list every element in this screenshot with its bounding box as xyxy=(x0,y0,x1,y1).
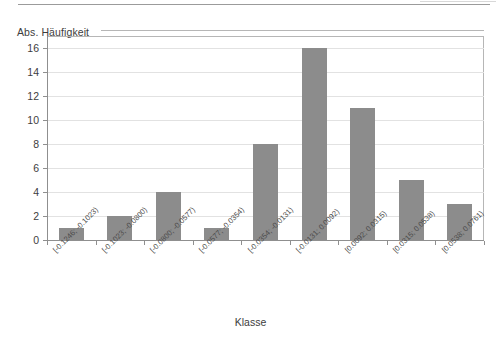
y-tick-label: 14 xyxy=(13,67,39,77)
bar[interactable] xyxy=(302,48,327,240)
y-tick-label: 0 xyxy=(13,235,39,245)
x-tick-mark xyxy=(47,241,48,245)
y-tick-mark xyxy=(43,96,48,97)
x-tick-mark xyxy=(338,241,339,245)
y-tick-label: 2 xyxy=(13,211,39,221)
y-tick-mark xyxy=(43,168,48,169)
y-tick-mark xyxy=(43,120,48,121)
y-tick-mark xyxy=(43,192,48,193)
gridline xyxy=(48,48,484,49)
y-tick-mark xyxy=(43,48,48,49)
x-tick-mark xyxy=(290,241,291,245)
x-axis-title: Klasse xyxy=(0,316,501,328)
x-tick-mark xyxy=(387,241,388,245)
x-tick-mark xyxy=(435,241,436,245)
gridline xyxy=(48,120,484,121)
histogram-chart: Abs. Häufigkeit 0246810121416 [-0.1246; … xyxy=(0,0,501,343)
y-tick-label: 8 xyxy=(13,139,39,149)
y-tick-label: 12 xyxy=(13,91,39,101)
y-tick-label: 4 xyxy=(13,187,39,197)
x-tick-mark xyxy=(193,241,194,245)
gridline xyxy=(48,96,484,97)
y-tick-mark xyxy=(43,144,48,145)
y-tick-label: 16 xyxy=(13,43,39,53)
y-tick-mark xyxy=(43,72,48,73)
x-tick-mark xyxy=(144,241,145,245)
x-tick-mark xyxy=(96,241,97,245)
gridline xyxy=(48,72,484,73)
plot-frame-top-segment xyxy=(101,30,484,31)
x-tick-mark xyxy=(484,241,485,245)
y-tick-label: 10 xyxy=(13,115,39,125)
y-tick-mark xyxy=(43,216,48,217)
y-axis-line xyxy=(47,36,48,241)
y-tick-label: 6 xyxy=(13,163,39,173)
x-tick-mark xyxy=(241,241,242,245)
